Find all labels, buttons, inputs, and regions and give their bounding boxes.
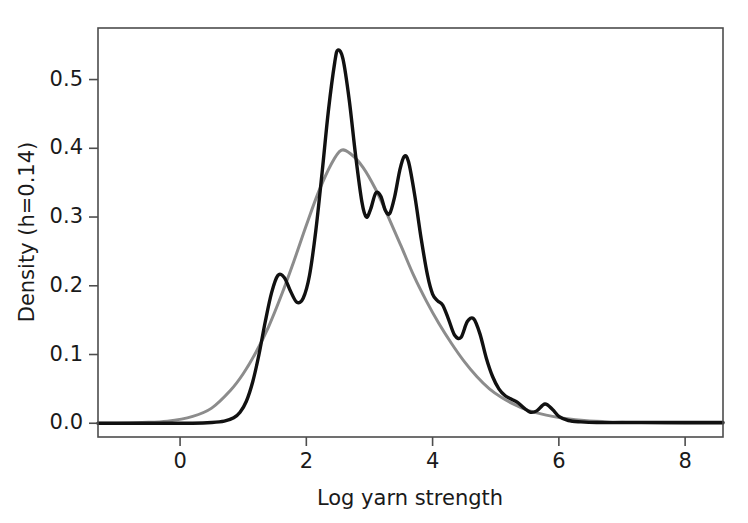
x-tick-label: 2 [300, 449, 313, 473]
y-tick-label: 0.4 [50, 135, 83, 159]
x-tick-label: 4 [426, 449, 439, 473]
x-tick-label: 0 [173, 449, 186, 473]
y-tick-label: 0.2 [50, 273, 83, 297]
y-tick-label: 0.5 [50, 67, 83, 91]
y-tick-label: 0.0 [50, 410, 83, 434]
chart-canvas: 02468 0.00.10.20.30.40.5 Log yarn streng… [0, 0, 748, 523]
y-axis-label: Density (h=0.14) [15, 142, 39, 323]
chart-background [0, 0, 748, 523]
y-tick-label: 0.3 [50, 204, 83, 228]
x-tick-label: 6 [552, 449, 565, 473]
density-plot-figure: 02468 0.00.10.20.30.40.5 Log yarn streng… [0, 0, 748, 523]
x-axis-label: Log yarn strength [317, 486, 503, 510]
y-tick-label: 0.1 [50, 342, 83, 366]
x-tick-label: 8 [678, 449, 691, 473]
